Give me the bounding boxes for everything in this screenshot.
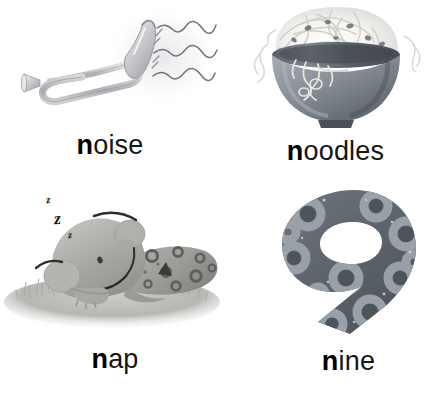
numeral-nine-illustration <box>258 182 439 342</box>
flashcard-noise[interactable]: noise <box>2 4 218 180</box>
flashcard-nap[interactable]: z z z nap <box>0 184 230 389</box>
word-label-nap: nap <box>0 344 230 375</box>
word-lead-letter: n <box>287 136 304 166</box>
word-lead-letter: n <box>76 130 93 160</box>
sound-halo <box>104 6 218 106</box>
sleep-mark-z-3: z <box>68 230 73 240</box>
flashcard-nine[interactable]: nine <box>258 182 439 390</box>
bowl-of-noodles-illustration <box>232 0 439 134</box>
bugle-mouthpiece-rim <box>21 74 26 92</box>
flashcard-noodles[interactable]: noodles <box>232 0 439 180</box>
word-label-noodles: noodles <box>232 136 439 167</box>
word-lead-letter: n <box>91 344 108 374</box>
word-rest-letters: oodles <box>303 136 384 166</box>
bugle-trumpet-illustration <box>2 4 218 128</box>
dinosaur-front-arm <box>44 260 80 292</box>
bowl-foot <box>318 120 354 128</box>
word-rest-letters: ine <box>339 346 376 376</box>
word-lead-letter: n <box>322 346 339 376</box>
word-label-nine: nine <box>258 346 439 377</box>
sleeping-dinosaur-illustration <box>0 184 230 344</box>
word-rest-letters: ap <box>108 344 138 374</box>
sleep-mark-z-2: z <box>53 210 61 227</box>
word-rest-letters: oise <box>93 130 143 160</box>
flashcard-page: noise <box>0 0 439 393</box>
word-label-noise: noise <box>2 130 218 161</box>
dinosaur-ear-base <box>117 239 135 253</box>
